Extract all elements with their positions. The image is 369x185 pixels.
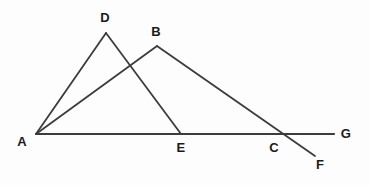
vertex-label-c: C [269,141,279,154]
segments-group [36,33,334,156]
vertex-label-b: B [151,25,161,38]
vertex-label-d: D [100,11,110,24]
segment-DE [106,33,181,134]
vertex-label-f: F [316,158,324,171]
segment-AB [36,46,157,134]
geometry-diagram: ADBECGF [0,0,369,185]
vertex-label-g: G [341,127,351,140]
vertex-label-e: E [177,141,186,154]
vertex-label-a: A [17,135,27,148]
segment-AD [36,33,106,134]
diagram-canvas [0,0,369,185]
